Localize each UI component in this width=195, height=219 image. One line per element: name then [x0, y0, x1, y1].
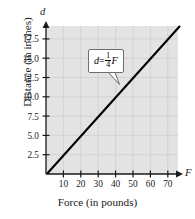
fraction-denominator: 4 [105, 60, 111, 69]
callout-equals: = [99, 55, 105, 66]
y-axis-title: Distance (in inches) [21, 0, 33, 137]
fraction-numerator: 1 [105, 52, 111, 60]
x-axis-title: Force (in pounds) [0, 196, 195, 208]
x-tick-label-70: 70 [156, 179, 180, 189]
y-axis-variable-label: d [40, 6, 45, 17]
y-tick-label-2.5: 2.5 [8, 150, 39, 160]
y-axis-arrowhead [43, 21, 50, 28]
x-axis-variable-label: F [185, 167, 191, 178]
callout-rhs: F [112, 55, 118, 66]
x-axis-arrowhead [176, 171, 183, 178]
callout-fraction: 14 [105, 52, 111, 69]
chart-figure: d=14F d F 2.5 5.0 7.5 10.0 12.5 15.0 17.… [0, 0, 195, 219]
equation-callout: d=14F [88, 49, 124, 73]
